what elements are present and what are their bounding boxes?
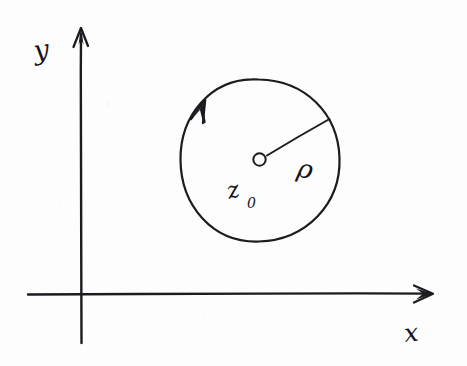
radius-line-group bbox=[267, 119, 330, 156]
y-axis-label: y bbox=[31, 33, 52, 66]
center-label-symbol: z bbox=[223, 175, 243, 204]
center-label-z0: z 0 bbox=[223, 175, 256, 211]
radius-label-rho: ρ bbox=[294, 152, 317, 185]
x-axis bbox=[28, 286, 433, 303]
y-axis bbox=[74, 28, 89, 343]
x-axis-label: x bbox=[403, 318, 420, 348]
center-point-marker bbox=[253, 153, 265, 165]
contour-diagram-svg: y x ρ z 0 bbox=[0, 0, 467, 366]
radius-line bbox=[267, 119, 330, 156]
figure-canvas: y x ρ z 0 bbox=[0, 0, 467, 366]
center-label-subscript: 0 bbox=[247, 195, 256, 211]
y-axis-shaft bbox=[81, 34, 82, 343]
x-axis-shaft bbox=[28, 293, 428, 294]
